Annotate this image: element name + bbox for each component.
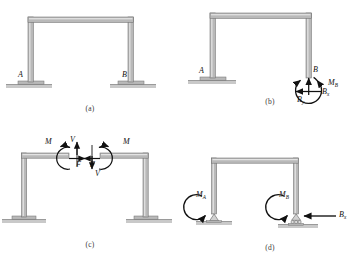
frame-member-right-column-b xyxy=(306,13,311,78)
roller-support-b-d xyxy=(289,214,304,225)
frame-member-girder-b xyxy=(210,13,311,18)
panel-b: A B MB Bx By (b) xyxy=(180,0,360,133)
support-label-a: A xyxy=(199,67,204,75)
joint-label-b: B xyxy=(313,66,318,74)
frame-member-girder-a xyxy=(28,17,133,22)
moment-label-m-left: M xyxy=(45,138,52,146)
panel-b-drawing xyxy=(180,0,360,133)
frame-diagram-a xyxy=(0,0,180,133)
panel-c: M V F F V M (c) xyxy=(0,133,180,266)
panel-b-caption: (b) xyxy=(180,97,360,106)
frame-member-right-column-d xyxy=(294,158,299,214)
frame-diagram-b xyxy=(180,0,360,133)
force-label-bx: Bx xyxy=(339,211,346,219)
panel-a-drawing xyxy=(0,0,180,133)
axial-label-f-left: F xyxy=(76,161,81,169)
moment-label-mb: MB xyxy=(328,79,338,87)
ground-strip-left-c xyxy=(2,219,46,223)
panel-a-caption: (a) xyxy=(0,104,180,113)
frame-member-girder-d xyxy=(212,158,299,163)
frame-member-left-column-c xyxy=(22,153,27,217)
moment-label-mb: MB xyxy=(279,191,289,199)
shear-label-v-right: V xyxy=(95,170,100,178)
frame-member-right-column-a xyxy=(128,17,133,82)
frame-member-left-column-d xyxy=(212,158,217,214)
ground-strip-right-a xyxy=(110,84,156,88)
frame-member-left-column-b xyxy=(210,13,215,78)
frame-member-girder-right-c xyxy=(100,153,148,158)
force-label-bx: Bx xyxy=(322,88,329,96)
panel-a: A B (a) xyxy=(0,0,180,133)
figure-panel-grid: A B (a) xyxy=(0,0,360,266)
ground-strip-right-c xyxy=(126,219,172,223)
support-label-b: B xyxy=(122,71,127,79)
panel-d-caption: (d) xyxy=(180,243,360,252)
moment-label-m-right: M xyxy=(123,138,130,146)
moment-label-ma: MA xyxy=(196,191,206,199)
pin-support-a-d xyxy=(207,214,222,222)
ground-strip-left-a xyxy=(6,84,52,88)
shear-label-v-left: V xyxy=(70,136,75,144)
support-label-a: A xyxy=(18,71,23,79)
frame-member-girder-left-c xyxy=(22,153,70,158)
axial-label-f-right: F xyxy=(90,161,95,169)
ground-strip-left-b xyxy=(188,80,236,84)
panel-c-caption: (c) xyxy=(0,240,180,249)
frame-member-right-column-c xyxy=(143,153,148,217)
frame-member-left-column-a xyxy=(28,17,33,82)
panel-d: MA MB Bx (d) xyxy=(180,133,360,266)
